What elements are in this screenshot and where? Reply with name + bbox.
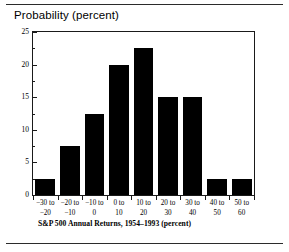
x-tick bbox=[254, 196, 255, 200]
figure-container: Probability (percent) 0510152025 −30 to−… bbox=[0, 0, 289, 252]
y-tick-label: 15 bbox=[22, 92, 30, 101]
plot-area bbox=[33, 32, 254, 195]
x-tick-label: 50 to60 bbox=[229, 199, 254, 218]
x-tick-label: 30 to40 bbox=[180, 199, 205, 218]
x-tick-label: −10 to0 bbox=[82, 199, 107, 218]
bar bbox=[158, 97, 178, 195]
x-tick-label: 10 to20 bbox=[131, 199, 156, 218]
x-tick bbox=[33, 196, 34, 200]
bar bbox=[35, 179, 55, 195]
bar bbox=[134, 48, 154, 195]
y-tick-label: 0 bbox=[25, 190, 29, 199]
y-tick-label: 5 bbox=[25, 157, 29, 166]
bar bbox=[109, 65, 129, 195]
x-axis-caption: S&P 500 Annual Returns, 1954–1993 (perce… bbox=[38, 219, 191, 228]
bar bbox=[85, 114, 105, 196]
bar bbox=[60, 146, 80, 195]
chart-title: Probability (percent) bbox=[14, 9, 119, 21]
x-tick-label: 20 to30 bbox=[156, 199, 181, 218]
y-tick-label: 10 bbox=[22, 125, 30, 134]
figure-bottom-rule bbox=[6, 243, 283, 244]
y-tick-label: 20 bbox=[22, 60, 30, 69]
bar bbox=[232, 179, 252, 195]
x-tick-label: −20 to−10 bbox=[58, 199, 83, 218]
x-tick-label: 40 to50 bbox=[205, 199, 230, 218]
y-tick-label: 25 bbox=[22, 27, 30, 36]
bar bbox=[183, 97, 203, 195]
x-tick-label: −30 to−20 bbox=[33, 199, 58, 218]
bar bbox=[207, 179, 227, 195]
x-tick-label: 0 to10 bbox=[107, 199, 132, 218]
figure-top-rule bbox=[6, 4, 283, 5]
